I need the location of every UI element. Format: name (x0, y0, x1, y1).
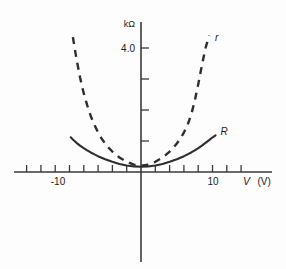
x-axis-title: V (V) (243, 171, 271, 188)
x-axis-tick-label-10: 10 (207, 176, 219, 187)
curve-R-solid (71, 135, 216, 166)
x-axis-symbol: V (243, 175, 251, 187)
y-axis-ticks (141, 48, 149, 141)
x-axis-unit: (V) (257, 176, 270, 187)
chart-svg: kΩ 4.0 -10 10 V (V) r R (0, 0, 286, 269)
curve-label-r: r (215, 32, 219, 43)
y-axis-unit-label: kΩ (124, 19, 136, 29)
curve-label-R: R (221, 126, 228, 137)
chart-figure: kΩ 4.0 -10 10 V (V) r R (0, 0, 286, 269)
y-axis-tick-label-4: 4.0 (121, 43, 135, 54)
x-axis-tick-label-minus10: -10 (51, 176, 66, 187)
